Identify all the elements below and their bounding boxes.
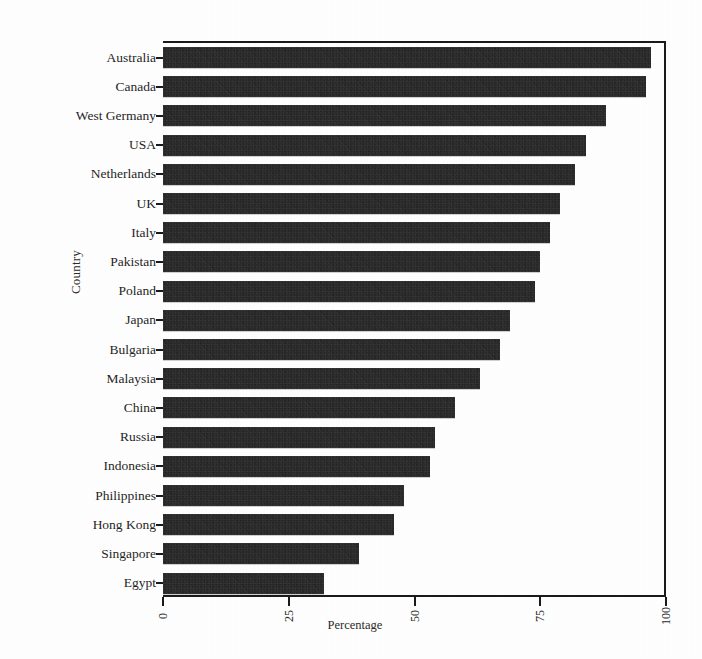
y-axis-tick-label: Netherlands xyxy=(6,167,156,181)
y-axis-tick-label: Singapore xyxy=(6,547,156,561)
bar xyxy=(163,339,500,360)
bar xyxy=(163,105,606,126)
bar xyxy=(163,76,646,97)
bar xyxy=(163,281,535,302)
y-axis-tick-label: Philippines xyxy=(6,489,156,503)
bar xyxy=(163,251,540,272)
bar xyxy=(163,397,455,418)
x-axis-tick-label: 0 xyxy=(156,596,170,636)
bar xyxy=(163,368,480,389)
y-axis-tick-label: West Germany xyxy=(6,109,156,123)
bar xyxy=(163,193,560,214)
y-axis-tick-label: Russia xyxy=(6,430,156,444)
y-axis-tick-label: Hong Kong xyxy=(6,518,156,532)
y-axis-tick-label: Egypt xyxy=(6,576,156,590)
bar xyxy=(163,514,394,535)
chart-page: Country AustraliaCanadaWest GermanyUSANe… xyxy=(0,0,702,659)
y-axis-tick-label: Australia xyxy=(6,51,156,65)
y-axis-tick-label: China xyxy=(6,401,156,415)
bar xyxy=(163,456,430,477)
bar xyxy=(163,427,435,448)
y-axis-tick-label: UK xyxy=(6,197,156,211)
y-axis-tick-label: Japan xyxy=(6,313,156,327)
y-axis-tick-label: Italy xyxy=(6,226,156,240)
bar xyxy=(163,47,651,68)
bar xyxy=(163,222,550,243)
bar xyxy=(163,573,324,594)
y-axis-tick-label: Pakistan xyxy=(6,255,156,269)
y-axis-tick-label: USA xyxy=(6,138,156,152)
x-axis-tick-label: 75 xyxy=(533,596,547,636)
bar xyxy=(163,310,510,331)
y-axis-tick-label: Bulgaria xyxy=(6,343,156,357)
bar xyxy=(163,135,586,156)
plot-area xyxy=(163,41,666,597)
y-axis-tick-label: Indonesia xyxy=(6,459,156,473)
y-axis-tick-label: Poland xyxy=(6,284,156,298)
x-axis-title: Percentage xyxy=(275,618,435,633)
y-axis-tick-label: Malaysia xyxy=(6,372,156,386)
x-axis-tick-label: 100 xyxy=(659,596,673,636)
bar xyxy=(163,543,359,564)
y-axis-tick-label: Canada xyxy=(6,80,156,94)
frame-right-border xyxy=(664,41,666,597)
frame-top-border xyxy=(163,41,666,43)
bar xyxy=(163,164,575,185)
bar xyxy=(163,485,404,506)
